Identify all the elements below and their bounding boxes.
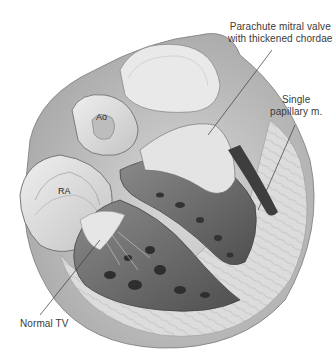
label-papillary-line2: papillary m. <box>270 106 322 118</box>
label-papillary-line1: Single <box>270 94 322 106</box>
label-normal-tricuspid-valve: Normal TV <box>20 318 69 330</box>
label-mitral-line1: Parachute mitral valve <box>228 21 333 33</box>
label-single-papillary-muscle: Single papillary m. <box>270 94 322 118</box>
label-right-atrium: RA <box>58 186 71 196</box>
label-parachute-mitral-valve: Parachute mitral valve with thickened ch… <box>228 21 333 45</box>
heart-illustration <box>0 0 333 361</box>
label-aorta: Ao <box>96 112 107 122</box>
label-mitral-line2: with thickened chordae <box>228 33 333 45</box>
